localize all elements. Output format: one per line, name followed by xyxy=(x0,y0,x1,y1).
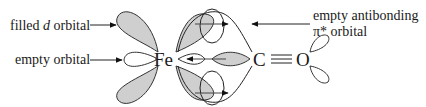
filled-d-orbital-label: filled d orbital xyxy=(10,18,90,33)
fe-left-d-orbital xyxy=(117,12,158,104)
oxygen-lone-pairs xyxy=(310,35,329,83)
triple-bond xyxy=(271,55,292,63)
fe-atom: Fe xyxy=(154,49,173,70)
carbon-atom: C xyxy=(253,49,266,70)
fe-co-orbital-diagram: filled d orbital empty orbital Fe empty … xyxy=(0,0,426,107)
empty-orbital-label: empty orbital xyxy=(15,52,90,67)
fe-right-d-orbital xyxy=(176,14,214,100)
antibonding-label-line1: empty antibonding xyxy=(313,8,418,23)
oxygen-atom: O xyxy=(296,49,310,70)
